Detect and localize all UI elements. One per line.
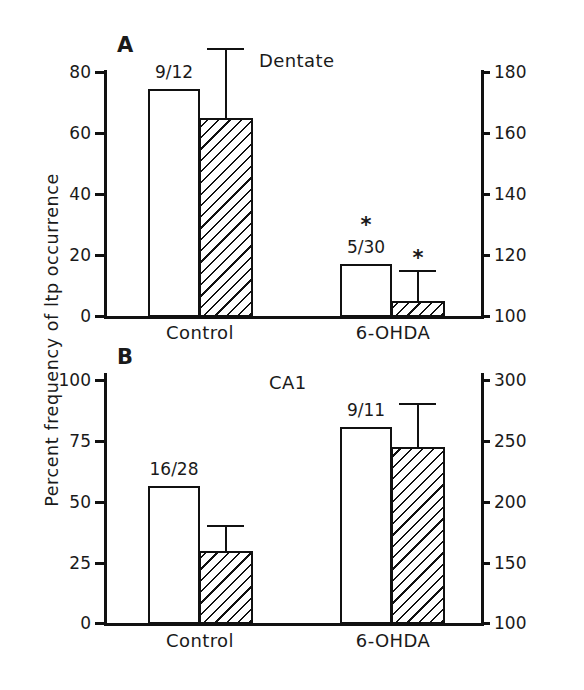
panel-b-title: CA1 — [269, 372, 307, 393]
panel-a-control-hatched-errorbar-stem — [225, 48, 227, 119]
panel-a-control-open-bar — [148, 89, 200, 317]
figure-root: Percent frequency of ltp occurrence Perc… — [0, 0, 584, 690]
panel-a-right-tick-100 — [481, 315, 490, 318]
panel-a-ohda-open-bar-significance: * — [330, 215, 402, 236]
panel-b-right-ticklabel-150: 150 — [494, 553, 526, 573]
panel-b-right-ticklabel-250: 250 — [494, 431, 526, 451]
panel-a-ohda-hatched-errorbar-cap — [399, 270, 436, 272]
panel-a-left-ticklabel-60: 60 — [40, 123, 91, 143]
panel-b-left-tick-100 — [95, 379, 104, 382]
panel-b-ohda-hatched-bar — [391, 447, 445, 624]
panel-a-xticklabel-control: Control — [140, 322, 260, 343]
panel-a-left-ticklabel-0: 0 — [40, 306, 91, 326]
panel-b-control-hatched-errorbar-stem — [225, 525, 227, 553]
panel-a-ohda-hatched-bar-significance: * — [382, 248, 454, 269]
panel-a-right-ticklabel-100: 100 — [494, 306, 526, 326]
panel-a-right-ticklabel-160: 160 — [494, 123, 526, 143]
panel-b-ohda-open-bar-label: 9/11 — [328, 400, 404, 420]
panel-a-control-open-bar-label: 9/12 — [138, 62, 210, 82]
panel-b-right-ticklabel-200: 200 — [494, 492, 526, 512]
panel-b-right-ticklabel-100: 100 — [494, 613, 526, 633]
panel-b-right-tick-300 — [481, 379, 490, 382]
panel-a-control-hatched-errorbar-cap — [207, 48, 244, 50]
panel-a-right-ticklabel-180: 180 — [494, 62, 526, 82]
panel-a-left-ticklabel-40: 40 — [40, 184, 91, 204]
panel-b-right-tick-150 — [481, 562, 490, 565]
panel-a-xticklabel-ohda: 6-OHDA — [330, 322, 456, 343]
panel-b-ohda-open-bar — [340, 427, 392, 624]
panel-a-left-tick-80 — [95, 71, 104, 74]
panel-b-right-tick-250 — [481, 440, 490, 443]
panel-b-left-tick-50 — [95, 501, 104, 504]
panel-b-xticklabel-control: Control — [140, 630, 260, 651]
panel-b-control-hatched-bar — [199, 551, 253, 624]
panel-b-control-open-bar-label: 16/28 — [132, 459, 216, 479]
panel-a-right-tick-160 — [481, 132, 490, 135]
panel-a-ohda-open-bar — [340, 264, 392, 317]
panel-a-left-tick-0 — [95, 315, 104, 318]
panel-b-control-open-bar — [148, 486, 200, 624]
panel-a-right-ticklabel-120: 120 — [494, 245, 526, 265]
panel-b-left-tick-25 — [95, 562, 104, 565]
panel-a-control-hatched-bar — [199, 118, 253, 317]
panel-a-title: Dentate — [259, 50, 334, 71]
panel-a-right-tick-120 — [481, 254, 490, 257]
panel-a-right-tick-180 — [481, 71, 490, 74]
panel-b-xticklabel-ohda: 6-OHDA — [330, 630, 456, 651]
panel-b-ohda-hatched-errorbar-cap — [399, 403, 436, 405]
panel-b-right-tick-200 — [481, 501, 490, 504]
panel-a-right-ticklabel-140: 140 — [494, 184, 526, 204]
panel-letter-b: B — [117, 345, 133, 369]
panel-a-left-ticklabel-20: 20 — [40, 245, 91, 265]
panel-b-right-tick-100 — [481, 622, 490, 625]
panel-b-left-tick-75 — [95, 440, 104, 443]
panel-a-left-tick-40 — [95, 193, 104, 196]
panel-b-control-hatched-errorbar-cap — [207, 525, 244, 527]
panel-b-left-ticklabel-75: 75 — [30, 431, 91, 451]
panel-a-ohda-hatched-errorbar-stem — [417, 270, 419, 303]
panel-b-right-axis — [481, 373, 484, 626]
panel-b-right-ticklabel-300: 300 — [494, 370, 526, 390]
panel-b-left-ticklabel-25: 25 — [30, 553, 91, 573]
panel-b-left-ticklabel-0: 0 — [30, 613, 91, 633]
panel-letter-a: A — [117, 33, 133, 57]
panel-a-dentate: A Dentate 80 60 40 20 0 180 160 140 120 … — [0, 0, 584, 345]
panel-b-left-ticklabel-100: 100 — [30, 370, 91, 390]
panel-b-left-axis — [104, 373, 107, 626]
panel-b-left-ticklabel-50: 50 — [30, 492, 91, 512]
panel-a-left-tick-20 — [95, 254, 104, 257]
panel-a-left-ticklabel-80: 80 — [40, 62, 91, 82]
panel-b-left-tick-0 — [95, 622, 104, 625]
panel-a-right-tick-140 — [481, 193, 490, 196]
panel-b-ohda-hatched-errorbar-stem — [417, 403, 419, 449]
panel-a-left-tick-60 — [95, 132, 104, 135]
panel-a-left-axis — [104, 70, 107, 319]
panel-a-ohda-hatched-bar — [391, 301, 445, 317]
panel-b-ca1: B CA1 100 75 50 25 0 300 250 200 150 100 — [0, 345, 584, 690]
